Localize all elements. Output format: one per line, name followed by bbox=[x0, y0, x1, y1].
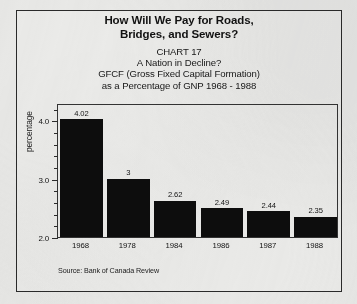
bars-layer: 4.0232.622.492.442.35 bbox=[58, 105, 337, 237]
main-title-line-2: Bridges, and Sewers? bbox=[22, 28, 336, 42]
bar bbox=[107, 179, 150, 237]
y-axis-minor-tick bbox=[54, 133, 58, 134]
subtitle-line-4: as a Percentage of GNP 1968 - 1988 bbox=[22, 80, 336, 91]
x-axis: 196819781984198619871988 bbox=[57, 241, 338, 253]
source-note: Source: Bank of Canada Review bbox=[58, 266, 159, 275]
y-axis-minor-tick bbox=[54, 191, 58, 192]
bar-slot: 3 bbox=[105, 105, 152, 237]
y-axis-tick-label: 3.0 bbox=[38, 175, 49, 184]
subtitle-block: CHART 17 A Nation in Decline? GFCF (Gros… bbox=[22, 46, 336, 91]
bar-value-label: 3 bbox=[105, 168, 152, 177]
y-axis-minor-tick bbox=[54, 168, 58, 169]
y-axis: 2.03.04.0 bbox=[44, 104, 58, 238]
bar-slot: 2.44 bbox=[245, 105, 292, 237]
y-axis-title: percentage bbox=[24, 111, 34, 152]
bar-slot: 4.02 bbox=[58, 105, 105, 237]
y-axis-minor-tick bbox=[54, 226, 58, 227]
x-axis-tick-label: 1987 bbox=[244, 241, 291, 250]
bar-slot: 2.35 bbox=[292, 105, 339, 237]
plot-area: 4.0232.622.492.442.35 bbox=[57, 104, 338, 238]
bar bbox=[201, 208, 244, 237]
bar bbox=[247, 211, 290, 237]
x-axis-tick-label: 1978 bbox=[104, 241, 151, 250]
y-axis-minor-tick bbox=[54, 156, 58, 157]
bar-slot: 2.49 bbox=[199, 105, 246, 237]
bar-value-label: 2.35 bbox=[292, 206, 339, 215]
bar bbox=[154, 201, 197, 237]
y-axis-tick-label: 2.0 bbox=[38, 234, 49, 243]
y-axis-major-tick bbox=[52, 180, 58, 181]
subtitle-line-1: CHART 17 bbox=[22, 46, 336, 57]
bar-value-label: 2.49 bbox=[199, 198, 246, 207]
x-axis-tick-label: 1968 bbox=[57, 241, 104, 250]
subtitle-line-2: A Nation in Decline? bbox=[22, 57, 336, 68]
bar-value-label: 4.02 bbox=[58, 109, 105, 118]
title-block: How Will We Pay for Roads, Bridges, and … bbox=[22, 14, 336, 91]
bar bbox=[60, 119, 103, 237]
main-title-line-1: How Will We Pay for Roads, bbox=[22, 14, 336, 28]
bar-value-label: 2.62 bbox=[152, 190, 199, 199]
bar bbox=[294, 217, 337, 237]
bar-value-label: 2.44 bbox=[245, 201, 292, 210]
bar-slot: 2.62 bbox=[152, 105, 199, 237]
x-axis-tick-label: 1988 bbox=[291, 241, 338, 250]
subtitle-line-3: GFCF (Gross Fixed Capital Formation) bbox=[22, 68, 336, 79]
y-axis-major-tick bbox=[52, 121, 58, 122]
x-axis-tick-label: 1984 bbox=[151, 241, 198, 250]
y-axis-minor-tick bbox=[54, 215, 58, 216]
y-axis-minor-tick bbox=[54, 203, 58, 204]
x-axis-tick-label: 1986 bbox=[198, 241, 245, 250]
y-axis-minor-tick bbox=[54, 145, 58, 146]
y-axis-minor-tick bbox=[54, 110, 58, 111]
y-axis-tick-label: 4.0 bbox=[38, 117, 49, 126]
y-axis-major-tick bbox=[52, 238, 58, 239]
